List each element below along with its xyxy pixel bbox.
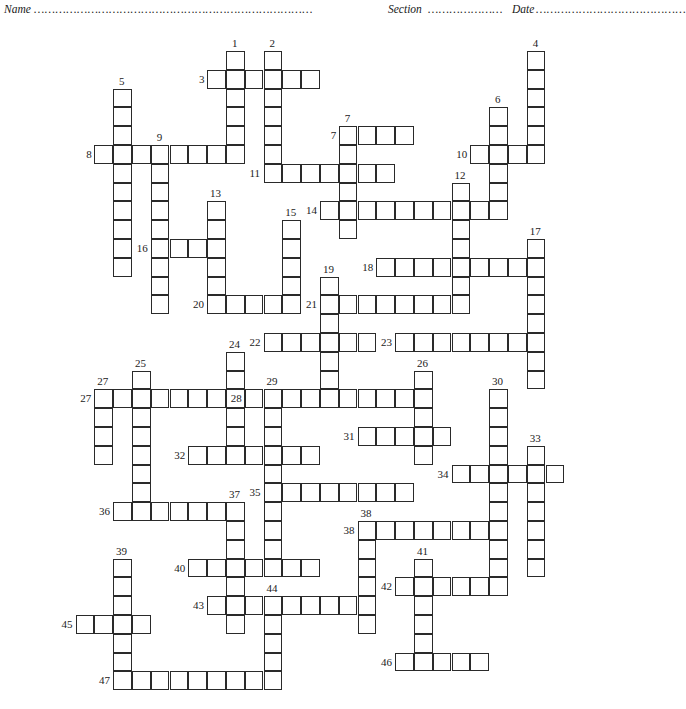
crossword-cell[interactable]	[376, 389, 395, 408]
crossword-cell[interactable]	[207, 258, 226, 277]
crossword-cell[interactable]	[527, 483, 546, 502]
crossword-cell[interactable]	[226, 559, 245, 578]
crossword-cell[interactable]	[113, 107, 132, 126]
crossword-cell[interactable]	[395, 389, 414, 408]
crossword-cell[interactable]	[546, 465, 565, 484]
crossword-cell[interactable]	[489, 164, 508, 183]
crossword-cell[interactable]	[301, 70, 320, 89]
crossword-cell[interactable]	[226, 107, 245, 126]
crossword-cell[interactable]	[132, 502, 151, 521]
crossword-cell[interactable]	[170, 502, 189, 521]
crossword-cell[interactable]	[527, 89, 546, 108]
crossword-cell[interactable]	[339, 164, 358, 183]
crossword-cell[interactable]	[489, 427, 508, 446]
crossword-cell[interactable]	[527, 521, 546, 540]
crossword-cell[interactable]	[94, 145, 113, 164]
crossword-cell[interactable]	[188, 446, 207, 465]
crossword-cell[interactable]	[320, 277, 339, 296]
crossword-cell[interactable]	[207, 446, 226, 465]
crossword-cell[interactable]	[452, 295, 471, 314]
crossword-cell[interactable]	[395, 333, 414, 352]
crossword-cell[interactable]	[376, 521, 395, 540]
crossword-cell[interactable]	[489, 183, 508, 202]
crossword-cell[interactable]	[113, 258, 132, 277]
crossword-cell[interactable]	[113, 671, 132, 690]
crossword-cell[interactable]	[301, 164, 320, 183]
crossword-cell[interactable]	[395, 483, 414, 502]
crossword-cell[interactable]	[226, 295, 245, 314]
crossword-cell[interactable]	[151, 671, 170, 690]
crossword-cell[interactable]	[264, 671, 283, 690]
crossword-cell[interactable]	[264, 126, 283, 145]
crossword-cell[interactable]	[508, 145, 527, 164]
crossword-cell[interactable]	[132, 671, 151, 690]
crossword-cell[interactable]	[113, 577, 132, 596]
crossword-cell[interactable]	[113, 389, 132, 408]
crossword-cell[interactable]	[320, 164, 339, 183]
crossword-cell[interactable]	[320, 295, 339, 314]
crossword-cell[interactable]	[508, 465, 527, 484]
crossword-cell[interactable]	[433, 521, 452, 540]
crossword-cell[interactable]	[264, 446, 283, 465]
crossword-cell[interactable]	[264, 596, 283, 615]
crossword-cell[interactable]	[470, 465, 489, 484]
crossword-cell[interactable]	[489, 408, 508, 427]
crossword-cell[interactable]	[226, 615, 245, 634]
crossword-cell[interactable]	[226, 540, 245, 559]
crossword-cell[interactable]	[414, 634, 433, 653]
crossword-cell[interactable]	[433, 295, 452, 314]
crossword-cell[interactable]	[113, 634, 132, 653]
crossword-cell[interactable]	[452, 239, 471, 258]
crossword-cell[interactable]	[358, 427, 377, 446]
crossword-cell[interactable]	[395, 521, 414, 540]
crossword-cell[interactable]	[151, 164, 170, 183]
crossword-cell[interactable]	[76, 615, 95, 634]
crossword-cell[interactable]	[527, 145, 546, 164]
crossword-cell[interactable]	[151, 502, 170, 521]
crossword-cell[interactable]	[527, 258, 546, 277]
crossword-cell[interactable]	[527, 333, 546, 352]
crossword-cell[interactable]	[113, 201, 132, 220]
crossword-cell[interactable]	[132, 145, 151, 164]
crossword-cell[interactable]	[226, 446, 245, 465]
crossword-cell[interactable]	[339, 183, 358, 202]
crossword-cell[interactable]	[527, 465, 546, 484]
crossword-cell[interactable]	[489, 502, 508, 521]
crossword-cell[interactable]	[226, 577, 245, 596]
crossword-cell[interactable]	[301, 389, 320, 408]
crossword-cell[interactable]	[132, 446, 151, 465]
crossword-cell[interactable]	[527, 70, 546, 89]
crossword-cell[interactable]	[395, 577, 414, 596]
crossword-cell[interactable]	[207, 389, 226, 408]
crossword-cell[interactable]	[151, 145, 170, 164]
crossword-cell[interactable]	[264, 502, 283, 521]
crossword-cell[interactable]	[508, 333, 527, 352]
crossword-cell[interactable]	[282, 596, 301, 615]
crossword-cell[interactable]	[282, 70, 301, 89]
crossword-cell[interactable]	[489, 107, 508, 126]
crossword-cell[interactable]	[489, 389, 508, 408]
crossword-cell[interactable]	[414, 521, 433, 540]
crossword-cell[interactable]	[320, 371, 339, 390]
crossword-cell[interactable]	[207, 145, 226, 164]
crossword-cell[interactable]	[226, 352, 245, 371]
crossword-cell[interactable]	[245, 596, 264, 615]
crossword-cell[interactable]	[94, 615, 113, 634]
crossword-cell[interactable]	[414, 389, 433, 408]
crossword-cell[interactable]	[132, 389, 151, 408]
crossword-cell[interactable]	[527, 239, 546, 258]
crossword-cell[interactable]	[452, 183, 471, 202]
crossword-cell[interactable]	[395, 295, 414, 314]
crossword-cell[interactable]	[320, 389, 339, 408]
crossword-cell[interactable]	[376, 164, 395, 183]
crossword-cell[interactable]	[282, 559, 301, 578]
crossword-cell[interactable]	[358, 577, 377, 596]
crossword-cell[interactable]	[320, 596, 339, 615]
crossword-cell[interactable]	[470, 521, 489, 540]
crossword-cell[interactable]	[151, 239, 170, 258]
crossword-cell[interactable]	[395, 258, 414, 277]
crossword-cell[interactable]	[320, 314, 339, 333]
crossword-cell[interactable]	[339, 126, 358, 145]
crossword-cell[interactable]	[470, 577, 489, 596]
crossword-cell[interactable]	[470, 145, 489, 164]
